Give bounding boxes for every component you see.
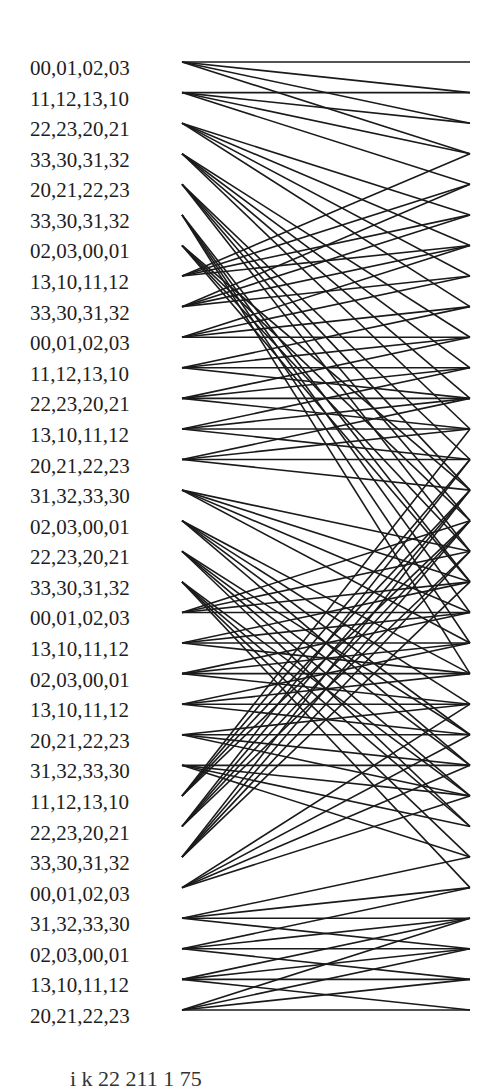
edge-line [182, 521, 470, 857]
edge-line [182, 245, 470, 306]
edge-line [182, 62, 470, 93]
row-fan [182, 307, 470, 399]
row-fan [182, 857, 470, 949]
edge-line [182, 215, 470, 307]
edge-line [182, 184, 470, 306]
edge-line [182, 337, 470, 368]
edge-line [182, 276, 470, 337]
edge-line [182, 765, 470, 887]
row-fan [182, 918, 470, 1010]
edge-line [182, 490, 470, 826]
edge-line [182, 857, 470, 918]
row-fan [182, 93, 470, 185]
row-fan [182, 154, 470, 276]
edge-line [182, 704, 470, 887]
edge-line [182, 93, 470, 185]
row-fan [182, 337, 470, 429]
row-fan [182, 184, 470, 306]
edge-line [182, 93, 470, 154]
edge-line [182, 123, 470, 215]
edge-line [182, 93, 470, 124]
edge-line [182, 490, 470, 551]
figure-caption-clipped: i k 22 211 1 75 [70, 1066, 202, 1090]
edge-line [182, 123, 470, 245]
row-fan [182, 888, 470, 980]
edge-line [182, 307, 470, 338]
edge-line [182, 490, 470, 612]
row-fan [182, 704, 470, 887]
edge-line [182, 460, 470, 491]
edge-line [182, 551, 470, 612]
edge-line [182, 918, 470, 1010]
edge-line [182, 154, 470, 276]
edge-line [182, 888, 470, 919]
edge-line [182, 123, 470, 276]
row-fan [182, 368, 470, 460]
